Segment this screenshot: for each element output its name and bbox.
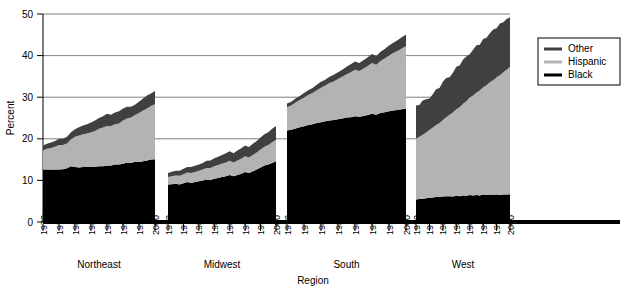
- y-tick-label: 20: [22, 133, 34, 144]
- panel-label-midwest: Midwest: [204, 259, 241, 270]
- x-tick-label: 2000: [272, 215, 282, 235]
- panel-midwest: [168, 126, 276, 222]
- x-tick-label: 1992: [479, 215, 489, 235]
- x-tick-label: 1972: [39, 215, 49, 235]
- x-tick-label: 1996: [385, 215, 395, 235]
- y-tick-label: 10: [22, 175, 34, 186]
- x-tick-label: 1984: [334, 215, 344, 235]
- x-tick-label: 2000: [151, 215, 161, 235]
- x-tick-label: 1972: [283, 215, 293, 235]
- legend-label-other: Other: [568, 43, 594, 54]
- stacked-area-chart: 01020304050Percent1972197619801984198819…: [0, 0, 626, 290]
- y-tick-label: 40: [22, 50, 34, 61]
- y-axis-title: Percent: [5, 101, 16, 136]
- chart-root: 01020304050Percent1972197619801984198819…: [0, 0, 626, 290]
- x-tick-label: 1976: [179, 215, 189, 235]
- x-tick-label: 1992: [241, 215, 251, 235]
- x-tick-label: 1988: [225, 215, 235, 235]
- x-tick-label: 1972: [164, 215, 174, 235]
- x-tick-label: 1988: [103, 215, 113, 235]
- x-tick-label: 1992: [119, 215, 129, 235]
- x-tick-label: 1984: [452, 215, 462, 235]
- panel-west: [416, 17, 510, 222]
- x-tick-label: 1992: [368, 215, 378, 235]
- legend-label-black: Black: [568, 69, 593, 80]
- x-tick-label: 1976: [300, 215, 310, 235]
- x-tick-label: 1996: [256, 215, 266, 235]
- x-tick-label: 1980: [317, 215, 327, 235]
- y-tick-label: 50: [22, 9, 34, 20]
- y-tick-label: 0: [27, 217, 33, 228]
- x-tick-label: 1988: [465, 215, 475, 235]
- x-tick-label: 1972: [412, 215, 422, 235]
- x-tick-label: 1976: [55, 215, 65, 235]
- panel-label-south: South: [333, 259, 359, 270]
- x-tick-label: 2000: [506, 215, 516, 235]
- x-tick-label: 1984: [210, 215, 220, 235]
- panel-label-northeast: Northeast: [77, 259, 121, 270]
- x-tick-label: 1980: [71, 215, 81, 235]
- area-northeast-hispanic: [43, 104, 155, 169]
- legend-label-hispanic: Hispanic: [568, 56, 606, 67]
- x-tick-label: 1980: [438, 215, 448, 235]
- panel-label-west: West: [452, 259, 475, 270]
- x-axis-title: Region: [297, 275, 329, 286]
- x-tick-label: 1988: [351, 215, 361, 235]
- x-tick-label: 1996: [135, 215, 145, 235]
- x-tick-label: 1996: [492, 215, 502, 235]
- y-tick-label: 30: [22, 92, 34, 103]
- x-tick-label: 2000: [402, 215, 412, 235]
- x-tick-label: 1984: [87, 215, 97, 235]
- panel-south: [287, 34, 406, 222]
- x-tick-label: 1976: [425, 215, 435, 235]
- x-tick-label: 1980: [194, 215, 204, 235]
- panel-northeast: [43, 91, 155, 222]
